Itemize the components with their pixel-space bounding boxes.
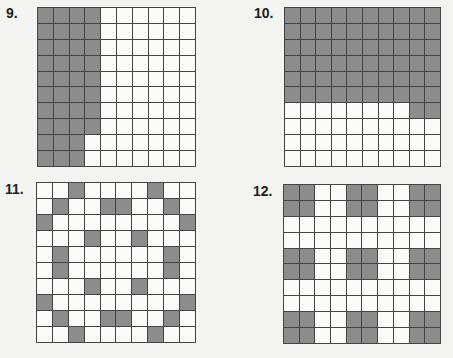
shaded-cell — [285, 56, 300, 71]
unshaded-cell — [347, 103, 362, 118]
unshaded-cell — [378, 233, 393, 248]
shaded-cell — [70, 72, 85, 87]
shaded-cell — [410, 87, 425, 102]
unshaded-cell — [133, 103, 148, 118]
shaded-cell — [38, 56, 53, 71]
unshaded-cell — [332, 103, 347, 118]
unshaded-cell — [394, 233, 409, 248]
unshaded-cell — [132, 183, 147, 198]
unshaded-cell — [378, 185, 393, 200]
shaded-cell — [300, 264, 315, 279]
unshaded-cell — [379, 135, 394, 150]
shaded-cell — [285, 8, 300, 23]
unshaded-cell — [148, 263, 163, 278]
shaded-cell — [54, 56, 69, 71]
shaded-cell — [332, 8, 347, 23]
shaded-cell — [301, 8, 316, 23]
unshaded-cell — [101, 40, 116, 55]
shaded-cell — [53, 199, 68, 214]
unshaded-cell — [37, 279, 52, 294]
shaded-cell — [53, 263, 68, 278]
shaded-cell — [70, 87, 85, 102]
unshaded-cell — [180, 24, 195, 39]
unshaded-cell — [101, 279, 116, 294]
unshaded-cell — [164, 279, 179, 294]
unshaded-cell — [116, 327, 131, 342]
shaded-cell — [85, 72, 100, 87]
shaded-cell — [362, 249, 377, 264]
unshaded-cell — [149, 8, 164, 23]
shaded-cell — [300, 185, 315, 200]
unshaded-cell — [37, 199, 52, 214]
shaded-cell — [301, 87, 316, 102]
unshaded-cell — [425, 135, 440, 150]
unshaded-cell — [180, 56, 195, 71]
unshaded-cell — [284, 296, 299, 311]
shaded-cell — [379, 40, 394, 55]
unshaded-cell — [425, 119, 440, 134]
unshaded-cell — [316, 151, 331, 166]
shaded-cell — [394, 40, 409, 55]
shaded-cell — [347, 72, 362, 87]
shaded-cell — [362, 264, 377, 279]
unshaded-cell — [378, 249, 393, 264]
shaded-cell — [54, 24, 69, 39]
unshaded-cell — [132, 247, 147, 262]
shaded-cell — [410, 249, 425, 264]
unshaded-cell — [331, 185, 346, 200]
unshaded-cell — [101, 72, 116, 87]
shaded-cell — [363, 8, 378, 23]
shaded-cell — [347, 264, 362, 279]
problem-10-label: 10. — [254, 5, 273, 21]
unshaded-cell — [164, 40, 179, 55]
unshaded-cell — [101, 119, 116, 134]
unshaded-cell — [164, 231, 179, 246]
unshaded-cell — [132, 215, 147, 230]
unshaded-cell — [117, 8, 132, 23]
shaded-cell — [69, 327, 84, 342]
unshaded-cell — [85, 199, 100, 214]
unshaded-cell — [53, 215, 68, 230]
unshaded-cell — [101, 295, 116, 310]
unshaded-cell — [148, 215, 163, 230]
unshaded-cell — [394, 328, 409, 343]
unshaded-cell — [116, 263, 131, 278]
shaded-cell — [347, 249, 362, 264]
shaded-cell — [363, 72, 378, 87]
unshaded-cell — [285, 119, 300, 134]
shaded-cell — [54, 40, 69, 55]
unshaded-cell — [149, 72, 164, 87]
shaded-cell — [410, 312, 425, 327]
shaded-cell — [54, 72, 69, 87]
shaded-cell — [300, 249, 315, 264]
unshaded-cell — [101, 8, 116, 23]
shaded-cell — [394, 87, 409, 102]
shaded-cell — [301, 72, 316, 87]
shaded-cell — [347, 8, 362, 23]
unshaded-cell — [315, 201, 330, 216]
unshaded-cell — [37, 263, 52, 278]
unshaded-cell — [301, 103, 316, 118]
unshaded-cell — [331, 249, 346, 264]
unshaded-cell — [133, 87, 148, 102]
unshaded-cell — [69, 215, 84, 230]
shaded-cell — [101, 311, 116, 326]
unshaded-cell — [133, 40, 148, 55]
unshaded-cell — [180, 8, 195, 23]
shaded-cell — [148, 327, 163, 342]
shaded-cell — [410, 328, 425, 343]
unshaded-cell — [315, 185, 330, 200]
unshaded-cell — [148, 311, 163, 326]
shaded-cell — [300, 201, 315, 216]
unshaded-cell — [53, 279, 68, 294]
unshaded-cell — [331, 217, 346, 232]
shaded-cell — [410, 201, 425, 216]
unshaded-cell — [164, 87, 179, 102]
unshaded-cell — [378, 328, 393, 343]
unshaded-cell — [180, 183, 195, 198]
unshaded-cell — [148, 231, 163, 246]
unshaded-cell — [37, 183, 52, 198]
unshaded-cell — [316, 119, 331, 134]
shaded-cell — [85, 103, 100, 118]
unshaded-cell — [379, 151, 394, 166]
